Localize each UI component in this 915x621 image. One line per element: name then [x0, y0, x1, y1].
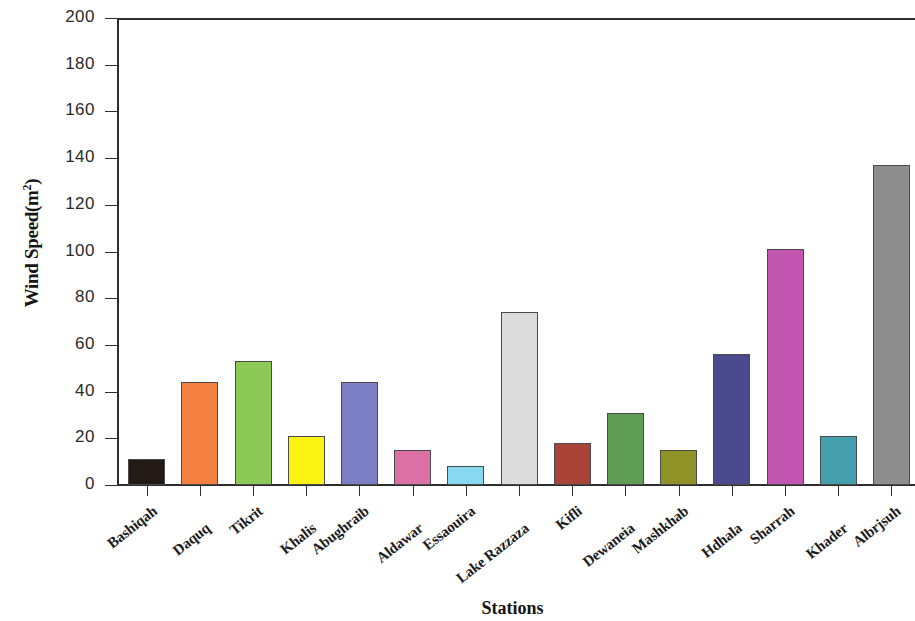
x-axis-tick-label: Sharrah: [747, 503, 798, 548]
x-axis-tick-labels: BashiqahDaquqTikritKhalisAbughraibAldawa…: [0, 0, 915, 621]
x-axis-tick-label: Kifli: [553, 503, 586, 534]
x-axis-tick-label: Mashkhab: [629, 503, 692, 558]
x-axis-tick-label: Aldawar: [373, 520, 426, 567]
x-axis-tick-label: Hdhala: [698, 520, 745, 562]
x-axis-tick-label: Albrjsuh: [850, 503, 905, 551]
x-axis-tick-label: Bashiqah: [104, 503, 161, 552]
wind-speed-bar-chart: Wind Speed(m2) 2001801601401201008060402…: [0, 0, 915, 621]
x-axis-tick-label: Tikrit: [227, 503, 267, 539]
x-axis-tick-label: Daquq: [170, 520, 214, 559]
x-axis-tick-label: Khader: [803, 520, 851, 563]
x-axis-tick-label: Essaouira: [420, 503, 479, 554]
x-axis-tick-label: Lake Razzaza: [453, 520, 532, 587]
x-axis-title: Stations: [0, 598, 915, 619]
